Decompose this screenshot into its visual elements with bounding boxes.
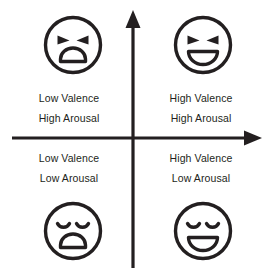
- quadrant-label-top-left: Low Valence High Arousal: [14, 88, 124, 128]
- angry-face-icon: [42, 14, 104, 76]
- content-face-icon: [172, 200, 234, 262]
- valence-axis: [12, 131, 262, 146]
- sad-sleepy-face-icon: [42, 200, 104, 262]
- quadrant-arousal-text: Low Arousal: [145, 168, 257, 188]
- arousal-axis-arrow-icon: [126, 10, 141, 28]
- quadrant-arousal-text: High Arousal: [145, 108, 257, 128]
- emotion-quadrant-diagram: Low Valence High Arousal High Valence Hi…: [0, 0, 271, 276]
- quadrant-valence-text: Low Valence: [14, 148, 124, 168]
- quadrant-label-bottom-right: High Valence Low Arousal: [145, 148, 257, 188]
- quadrant-valence-text: High Valence: [145, 148, 257, 168]
- valence-axis-arrow-icon: [244, 131, 262, 146]
- quadrant-valence-text: Low Valence: [14, 88, 124, 108]
- quadrant-arousal-text: High Arousal: [14, 108, 124, 128]
- quadrant-arousal-text: Low Arousal: [14, 168, 124, 188]
- quadrant-label-bottom-left: Low Valence Low Arousal: [14, 148, 124, 188]
- laughing-face-icon: [172, 14, 234, 76]
- quadrant-label-top-right: High Valence High Arousal: [145, 88, 257, 128]
- quadrant-valence-text: High Valence: [145, 88, 257, 108]
